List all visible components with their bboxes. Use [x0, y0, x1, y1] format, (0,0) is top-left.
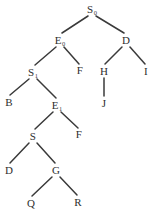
- node-label: F: [77, 64, 83, 76]
- node-q: Q: [27, 198, 35, 209]
- edge-s0-e0: [62, 16, 88, 33]
- node-r: R: [74, 197, 82, 208]
- edge-s1-e1: [37, 79, 56, 98]
- node-e0: E0: [55, 35, 65, 46]
- edge-d-i: [130, 47, 145, 64]
- node-d-right: D: [122, 35, 130, 46]
- node-label: S: [28, 66, 34, 78]
- edge-s0-d: [96, 16, 124, 33]
- node-label: S: [30, 130, 36, 142]
- node-label: H: [100, 65, 108, 77]
- node-label: B: [5, 96, 13, 108]
- node-label: D: [5, 164, 13, 176]
- node-i: I: [144, 66, 148, 77]
- node-label: E: [52, 99, 59, 111]
- node-b: B: [5, 97, 13, 108]
- edge-e0-s1: [35, 47, 56, 65]
- node-subscript: 1: [35, 72, 38, 79]
- node-h: H: [100, 66, 108, 77]
- parse-tree-figure: S0E0DS1FHIBE1JSFDGQR: [0, 0, 152, 215]
- node-label: S: [87, 3, 93, 15]
- edge-e1-s: [35, 112, 53, 129]
- node-s-lower: S: [30, 131, 36, 142]
- edge-d-h: [105, 47, 122, 64]
- node-label: G: [52, 164, 60, 176]
- node-f-lower: F: [76, 129, 82, 140]
- node-label: Q: [27, 197, 35, 209]
- edge-s-d: [10, 143, 29, 163]
- node-label: F: [76, 128, 82, 140]
- edge-e0-f: [64, 47, 79, 64]
- node-subscript: 0: [94, 9, 97, 16]
- node-label: I: [144, 65, 148, 77]
- node-label: D: [122, 34, 130, 46]
- tree-edge-layer: [0, 0, 152, 215]
- node-g: G: [52, 165, 60, 176]
- edge-e1-f: [61, 112, 78, 128]
- node-label: R: [74, 196, 82, 208]
- node-s0: S0: [87, 4, 97, 15]
- node-subscript: 1: [59, 105, 62, 112]
- node-label: E: [55, 34, 62, 46]
- edge-g-q: [32, 177, 52, 196]
- node-e1: E1: [52, 100, 62, 111]
- node-d-lower: D: [5, 165, 13, 176]
- edge-s1-b: [10, 79, 29, 95]
- node-subscript: 0: [62, 40, 65, 47]
- node-label: J: [102, 97, 106, 109]
- node-j: J: [102, 98, 106, 109]
- edge-g-r: [60, 177, 77, 195]
- node-s1: S1: [28, 67, 38, 78]
- node-f-upper: F: [77, 65, 83, 76]
- edge-s-g: [37, 143, 55, 163]
